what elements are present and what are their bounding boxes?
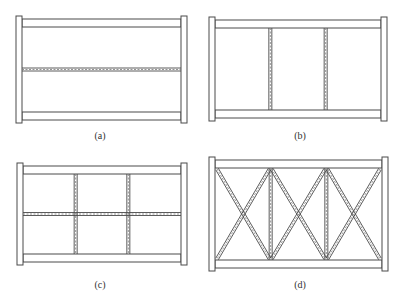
right-post — [181, 16, 187, 123]
diagonal-brace-2-a-edge-1 — [270, 170, 324, 260]
caption-a: (a) — [94, 130, 105, 142]
bottom-rail — [23, 254, 181, 262]
diagonal-brace-1-a — [216, 168, 271, 260]
diagonal-brace-3-b-edge-2 — [329, 170, 382, 260]
vertical-strut-1 — [269, 28, 272, 110]
middle-rail — [22, 68, 181, 71]
left-post — [16, 16, 22, 123]
top-rail — [22, 19, 181, 27]
panel-d — [209, 157, 388, 271]
vertical-strut-2 — [325, 168, 328, 260]
diagonal-brace-3-b — [326, 168, 381, 260]
top-rail — [23, 166, 181, 174]
diagonal-brace-2-b-edge-2 — [273, 170, 327, 260]
panel-b — [209, 17, 387, 121]
panel-a — [16, 16, 187, 123]
diagonal-brace-1-b-edge-2 — [218, 170, 271, 260]
frame-diagrams: (a) (b) (c) (d) — [0, 0, 400, 298]
bottom-rail — [215, 260, 382, 268]
diagonal-brace-3-a — [326, 168, 381, 260]
middle-rail — [23, 213, 181, 216]
diagonal-brace-1-a-edge-1 — [216, 170, 269, 260]
diagonal-brace-1-b — [216, 168, 271, 260]
right-post — [381, 17, 387, 121]
left-post — [17, 163, 23, 265]
bottom-rail — [22, 112, 181, 120]
diagonal-brace-3-a-edge-1 — [326, 170, 379, 260]
diagonal-brace-1-b-edge-1 — [216, 168, 269, 258]
caption-c: (c) — [94, 279, 105, 291]
diagonal-brace-3-b-edge-1 — [326, 168, 379, 258]
vertical-strut-2 — [324, 28, 327, 110]
right-post — [181, 163, 187, 265]
right-post — [382, 157, 388, 271]
diagonal-brace-2-b-edge-1 — [270, 168, 324, 258]
left-post — [209, 157, 215, 271]
diagonal-brace-2-a-edge-2 — [273, 168, 327, 258]
bottom-rail — [215, 110, 381, 118]
diagonal-brace-1-a-edge-2 — [218, 168, 271, 258]
left-post — [209, 17, 215, 121]
vertical-strut-2 — [127, 174, 130, 254]
caption-d: (d) — [294, 279, 306, 291]
panel-c — [17, 163, 187, 265]
top-rail — [215, 160, 382, 168]
diagonal-brace-3-a-edge-2 — [329, 168, 382, 258]
caption-b: (b) — [294, 130, 306, 142]
top-rail — [215, 20, 381, 28]
vertical-strut-1 — [269, 168, 272, 260]
diagonal-brace-2-b — [270, 168, 326, 260]
diagonal-brace-2-a — [270, 168, 326, 260]
vertical-strut-1 — [74, 174, 77, 254]
